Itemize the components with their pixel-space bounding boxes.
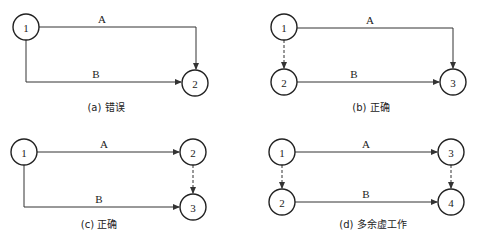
event-node-label: 1 xyxy=(23,22,29,34)
activity-arrow-a xyxy=(39,27,196,69)
activity-label: A xyxy=(366,14,374,26)
panel-d: AB1234(d) 多余虚工作 xyxy=(269,138,464,230)
event-node-label: 1 xyxy=(21,147,27,159)
panel-caption: (b) 正确 xyxy=(352,101,389,113)
panel-caption: (a) 错误 xyxy=(87,101,124,113)
panel-b: AB123(b) 正确 xyxy=(271,14,466,113)
activity-label: B xyxy=(95,193,102,205)
panel-caption: (c) 正确 xyxy=(81,218,117,230)
activity-label: A xyxy=(98,13,106,25)
activity-label: B xyxy=(92,68,99,80)
activity-arrow-a xyxy=(297,28,453,68)
panel-a: AB12(a) 错误 xyxy=(13,13,208,113)
event-node-label: 3 xyxy=(450,77,456,89)
activity-label: A xyxy=(362,138,370,150)
activity-label: A xyxy=(100,138,108,150)
activity-label: B xyxy=(362,188,369,200)
activity-arrow-b xyxy=(26,40,181,82)
panel-caption: (d) 多余虚工作 xyxy=(339,218,406,230)
event-node-label: 3 xyxy=(448,147,454,159)
event-node-label: 1 xyxy=(279,147,285,159)
event-node-label: 2 xyxy=(279,197,285,209)
event-node-label: 2 xyxy=(192,78,198,90)
event-node-label: 2 xyxy=(190,147,196,159)
activity-network-diagram: AB12(a) 错误AB123(b) 正确AB123(c) 正确AB1234(d… xyxy=(0,0,481,240)
panel-c: AB123(c) 正确 xyxy=(11,138,206,230)
event-node-label: 4 xyxy=(448,197,454,209)
event-node-label: 3 xyxy=(190,202,196,214)
activity-label: B xyxy=(350,68,357,80)
event-node-label: 2 xyxy=(281,77,287,89)
event-node-label: 1 xyxy=(281,22,287,34)
